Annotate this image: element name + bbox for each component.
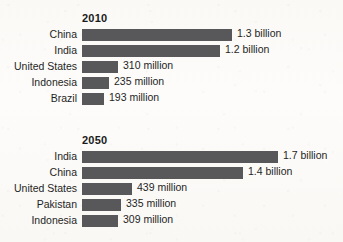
bar-category-label: United States	[0, 182, 77, 195]
group-title-2010: 2010	[82, 12, 107, 24]
bar-track	[82, 45, 220, 57]
bar	[82, 29, 232, 41]
bar	[82, 93, 104, 105]
bar-value-label: 1.3 billion	[237, 27, 281, 40]
bar-row: China1.3 billion	[0, 28, 343, 44]
bar-track	[82, 151, 278, 163]
bar-value-label: 439 million	[137, 181, 187, 194]
bar-row: India1.7 billion	[0, 150, 343, 166]
bar-row: Indonesia235 million	[0, 76, 343, 92]
bar-row: Pakistan335 million	[0, 198, 343, 214]
bar-rows-2050: India1.7 billionChina1.4 billionUnited S…	[0, 150, 343, 230]
bar-row: Brazil193 million	[0, 92, 343, 108]
bar	[82, 45, 220, 57]
bar-row: United States439 million	[0, 182, 343, 198]
bar	[82, 61, 118, 73]
bar-row: India1.2 billion	[0, 44, 343, 60]
bar	[82, 183, 132, 195]
bar-track	[82, 215, 118, 227]
bar-category-label: India	[0, 150, 77, 163]
bar-category-label: India	[0, 44, 77, 57]
bar-value-label: 1.4 billion	[248, 165, 292, 178]
bar-track	[82, 93, 104, 105]
bar-row: United States310 million	[0, 60, 343, 76]
bar-row: Indonesia309 million	[0, 214, 343, 230]
bar-category-label: United States	[0, 60, 77, 73]
population-bar-chart: 2010 China1.3 billionIndia1.2 billionUni…	[0, 0, 343, 242]
bar	[82, 199, 121, 211]
bar-value-label: 335 million	[126, 197, 176, 210]
bar-category-label: Indonesia	[0, 76, 77, 89]
bar-category-label: China	[0, 28, 77, 41]
bar-category-label: Brazil	[0, 92, 77, 105]
bar-track	[82, 199, 121, 211]
bar-rows-2010: China1.3 billionIndia1.2 billionUnited S…	[0, 28, 343, 108]
bar-category-label: Indonesia	[0, 214, 77, 227]
bar-value-label: 1.2 billion	[225, 43, 269, 56]
bar	[82, 215, 118, 227]
bar	[82, 151, 278, 163]
bar-value-label: 1.7 billion	[283, 149, 327, 162]
bar-category-label: Pakistan	[0, 198, 77, 211]
bar-track	[82, 77, 109, 89]
bar	[82, 167, 243, 179]
bar	[82, 77, 109, 89]
bar-category-label: China	[0, 166, 77, 179]
bar-value-label: 235 million	[114, 75, 164, 88]
bar-value-label: 309 million	[123, 213, 173, 226]
bar-track	[82, 61, 118, 73]
bar-track	[82, 29, 232, 41]
bar-row: China1.4 billion	[0, 166, 343, 182]
group-title-2050: 2050	[82, 134, 107, 146]
bar-track	[82, 183, 132, 195]
bar-value-label: 310 million	[123, 59, 173, 72]
bar-track	[82, 167, 243, 179]
bar-value-label: 193 million	[109, 91, 159, 104]
